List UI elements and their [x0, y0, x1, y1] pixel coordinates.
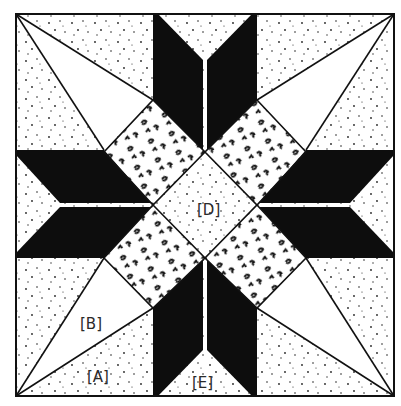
label-a: [A]: [87, 368, 109, 386]
label-b: [B]: [80, 315, 102, 333]
quilt-block-diagram: [D] [B] [A] [E]: [0, 0, 401, 406]
label-e: [E]: [192, 374, 213, 392]
label-d: [D]: [197, 201, 220, 219]
